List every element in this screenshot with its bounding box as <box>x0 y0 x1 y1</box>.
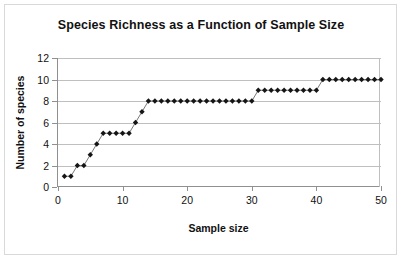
y-axis-tick-label: 4 <box>43 138 49 150</box>
data-point-marker <box>236 98 241 103</box>
data-point-marker <box>307 88 312 93</box>
data-point-marker <box>113 131 118 136</box>
data-point-marker <box>152 98 157 103</box>
data-point-marker <box>210 98 215 103</box>
data-point-marker <box>101 131 106 136</box>
chart-title: Species Richness as a Function of Sample… <box>0 18 402 32</box>
data-point-marker <box>204 98 209 103</box>
data-point-marker <box>268 88 273 93</box>
data-series <box>58 58 381 187</box>
x-axis-tick-label: 40 <box>311 194 323 206</box>
data-point-marker <box>88 152 93 157</box>
data-point-marker <box>346 77 351 82</box>
data-point-marker <box>139 109 144 114</box>
data-point-marker <box>314 88 319 93</box>
data-point-marker <box>294 88 299 93</box>
chart-figure: Species Richness as a Function of Sample… <box>0 0 402 260</box>
y-axis-tick <box>52 123 57 124</box>
series-connector-line <box>64 80 381 177</box>
data-point-marker <box>301 88 306 93</box>
y-axis-tick-label: 12 <box>37 52 49 64</box>
data-point-marker <box>223 98 228 103</box>
data-point-marker <box>107 131 112 136</box>
y-axis-tick-label: 6 <box>43 117 49 129</box>
y-axis-tick-label: 10 <box>37 74 49 86</box>
data-point-marker <box>133 120 138 125</box>
data-point-marker <box>146 98 151 103</box>
data-point-marker <box>340 77 345 82</box>
y-axis-tick <box>52 166 57 167</box>
data-point-marker <box>126 131 131 136</box>
plot-area: 024681012 01020304050 <box>57 58 380 187</box>
y-axis-tick <box>52 58 57 59</box>
data-point-marker <box>230 98 235 103</box>
y-axis-title: Number of species <box>14 58 27 187</box>
data-point-marker <box>120 131 125 136</box>
data-point-marker <box>165 98 170 103</box>
data-point-marker <box>281 88 286 93</box>
data-point-marker <box>320 77 325 82</box>
y-axis-tick <box>52 101 57 102</box>
data-point-marker <box>333 77 338 82</box>
data-point-marker <box>197 98 202 103</box>
data-point-marker <box>365 77 370 82</box>
y-axis-tick <box>52 144 57 145</box>
data-point-marker <box>159 98 164 103</box>
data-point-marker <box>243 98 248 103</box>
data-point-marker <box>68 174 73 179</box>
data-point-marker <box>249 98 254 103</box>
x-axis-title: Sample size <box>57 222 380 234</box>
data-point-marker <box>359 77 364 82</box>
y-axis-tick-label: 0 <box>43 181 49 193</box>
x-axis-tick-label: 0 <box>55 194 61 206</box>
data-point-marker <box>327 77 332 82</box>
data-point-marker <box>256 88 261 93</box>
data-point-marker <box>352 77 357 82</box>
x-axis-tick-label: 30 <box>246 194 258 206</box>
data-point-marker <box>217 98 222 103</box>
data-point-marker <box>288 88 293 93</box>
data-point-marker <box>62 174 67 179</box>
data-point-marker <box>262 88 267 93</box>
y-axis-tick-label: 2 <box>43 160 49 172</box>
x-axis-tick-label: 10 <box>117 194 129 206</box>
data-point-marker <box>178 98 183 103</box>
x-axis-tick <box>381 186 382 191</box>
x-axis-tick-label: 20 <box>181 194 193 206</box>
data-point-marker <box>75 163 80 168</box>
data-point-marker <box>372 77 377 82</box>
y-axis-tick <box>52 187 57 188</box>
y-axis-tick-label: 8 <box>43 95 49 107</box>
data-point-marker <box>81 163 86 168</box>
data-point-marker <box>172 98 177 103</box>
data-point-marker <box>185 98 190 103</box>
y-axis-tick <box>52 80 57 81</box>
x-axis-tick-label: 50 <box>375 194 387 206</box>
data-point-marker <box>275 88 280 93</box>
data-point-marker <box>191 98 196 103</box>
data-point-marker <box>94 141 99 146</box>
